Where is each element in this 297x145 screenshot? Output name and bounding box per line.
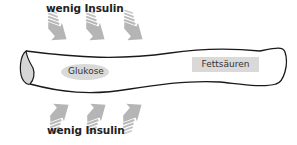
diagram-canvas: wenig Insulin wenig Insulin Glukose Fett… [0, 0, 297, 145]
label-fatty-acids: Fettsäuren [192, 59, 259, 69]
diagram-svg [0, 0, 297, 145]
arrow-top-2 [77, 9, 112, 45]
label-top-insulin: wenig Insulin [46, 2, 124, 14]
label-glucose: Glukose [66, 66, 106, 76]
arrow-top-3 [115, 9, 150, 45]
label-bottom-insulin: wenig Insulin [47, 124, 125, 136]
arrow-top-1 [39, 9, 74, 45]
